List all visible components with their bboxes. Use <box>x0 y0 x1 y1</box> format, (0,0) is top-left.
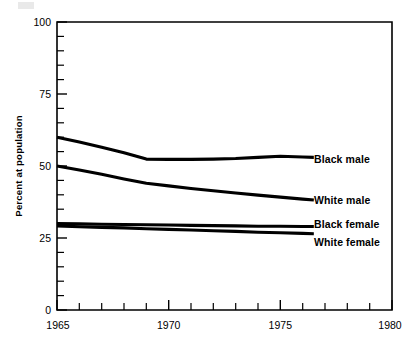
y-tick-label-50: 50 <box>39 160 51 172</box>
y-tick-label-100: 100 <box>33 16 51 28</box>
x-tick-label-1980: 1980 <box>378 319 402 331</box>
series-label-black-female: Black female <box>314 218 379 230</box>
x-tick-label-1970: 1970 <box>157 319 181 331</box>
series-labels-group: Black male White male Black female White… <box>314 153 380 248</box>
y-tick-label-75: 75 <box>39 88 51 100</box>
x-tick-label-1975: 1975 <box>269 319 293 331</box>
y-tick-label-25: 25 <box>39 232 51 244</box>
line-chart: 100 75 50 25 0 Percent at population <box>0 0 420 348</box>
chart-container: 100 75 50 25 0 Percent at population <box>0 0 420 348</box>
scan-artifact <box>18 2 34 9</box>
plot-frame <box>57 22 392 310</box>
series-label-black-male: Black male <box>314 153 370 165</box>
x-minor-ticks <box>79 303 369 310</box>
series-label-white-male: White male <box>314 194 370 206</box>
series-label-white-female: White female <box>314 236 380 248</box>
x-major-ticks <box>57 300 392 310</box>
x-tick-label-1965: 1965 <box>46 319 70 331</box>
x-axis: 1965 1970 1975 1980 <box>46 300 402 331</box>
y-axis-title: Percent at population <box>13 115 24 216</box>
series-line-black-male <box>57 137 314 159</box>
series-group <box>57 137 314 233</box>
series-line-white-male <box>57 166 314 200</box>
y-tick-label-0: 0 <box>45 304 51 316</box>
